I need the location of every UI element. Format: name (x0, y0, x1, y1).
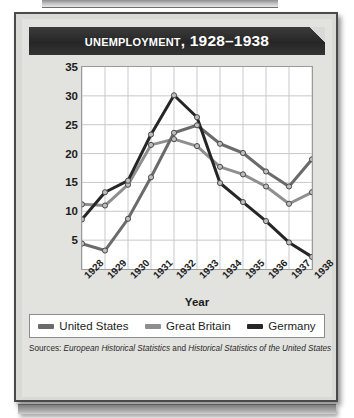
y-axis-tick: 15 (65, 176, 78, 188)
sources-prefix: Sources: (29, 344, 61, 353)
chart-figure: Unemployment, 1928–1938 Percentage of Wo… (0, 0, 354, 418)
bottom-edge-decoration (18, 404, 336, 414)
figure-plate: Unemployment, 1928–1938 Percentage of Wo… (14, 12, 338, 402)
legend-item: Germany (247, 320, 315, 332)
source-work-2: Historical Statistics of the United Stat… (188, 344, 331, 353)
source-work-1: European Historical Statistics (64, 344, 170, 353)
plot-canvas: 5101520253035192819291930193119321933193… (81, 66, 313, 270)
chart-title-bar: Unemployment, 1928–1938 (29, 27, 325, 55)
legend-swatch-icon (38, 324, 54, 329)
top-edge-decoration (42, 0, 278, 8)
legend-swatch-icon (145, 324, 161, 329)
sources-note: Sources: European Historical Statistics … (29, 343, 325, 354)
y-axis-tick: 5 (72, 234, 78, 246)
y-axis-tick: 30 (65, 90, 78, 102)
legend-label: United States (59, 320, 128, 332)
legend-item: Great Britain (145, 320, 231, 332)
sources-conjunction: and (172, 344, 186, 353)
legend-item: United States (38, 320, 128, 332)
plot-svg (82, 67, 312, 269)
y-axis-tick: 35 (65, 61, 78, 73)
y-axis-tick: 25 (65, 119, 78, 131)
y-axis-tick: 20 (65, 148, 78, 160)
legend-label: Germany (268, 320, 315, 332)
legend-label: Great Britain (166, 320, 231, 332)
chart-area: Percentage of Work Force 510152025303519… (29, 58, 325, 312)
y-axis-tick: 10 (65, 205, 78, 217)
chart-legend: United StatesGreat BritainGermany (29, 314, 325, 338)
chart-title: Unemployment, 1928–1938 (85, 32, 269, 50)
legend-swatch-icon (247, 324, 263, 329)
x-axis-label: Year (81, 296, 313, 308)
